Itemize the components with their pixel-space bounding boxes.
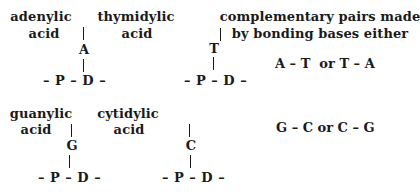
guanine-bond-top bbox=[71, 124, 72, 137]
adenylic-label-line1: adenylic bbox=[10, 10, 71, 23]
adenine-bond-bottom bbox=[83, 59, 84, 72]
base-cytosine: C bbox=[186, 139, 196, 152]
pair-gc: G – C or C – G bbox=[276, 121, 375, 134]
cytidylic-label-line1: cytidylic bbox=[97, 107, 159, 120]
base-guanine: G bbox=[66, 139, 77, 152]
cytosine-bond-bottom bbox=[190, 155, 191, 168]
base-thymine: T bbox=[209, 42, 219, 55]
guanylic-label-line1: guanylic bbox=[10, 107, 73, 120]
cytidylic-backbone: – P – D – bbox=[162, 171, 225, 184]
pairs-note-line1: complementary pairs made bbox=[220, 10, 420, 23]
adenylic-backbone: – P – D – bbox=[43, 74, 106, 87]
base-adenine: A bbox=[79, 43, 89, 56]
thymine-bond-bottom bbox=[213, 57, 214, 70]
guanine-bond-bottom bbox=[69, 155, 70, 168]
cytosine-bond-top bbox=[189, 124, 190, 137]
thymidylic-label-line2: acid bbox=[122, 27, 153, 40]
adenine-bond-top bbox=[83, 27, 84, 40]
pair-at: A – T or T – A bbox=[275, 57, 375, 70]
adenylic-label-line2: acid bbox=[29, 27, 60, 40]
guanylic-backbone: – P – D – bbox=[38, 171, 101, 184]
pairs-note-line2: by bonding bases either bbox=[232, 27, 409, 40]
thymidylic-label-line1: thymidylic bbox=[97, 10, 174, 23]
cytidylic-label-line2: acid bbox=[114, 123, 145, 136]
guanylic-label-line2: acid bbox=[21, 123, 52, 136]
thymidylic-backbone: – P – D – bbox=[184, 74, 247, 87]
thymine-bond-top bbox=[220, 28, 221, 41]
